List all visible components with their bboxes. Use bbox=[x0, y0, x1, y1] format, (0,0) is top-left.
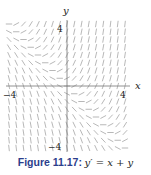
slope-segment bbox=[44, 99, 46, 105]
slope-segment bbox=[81, 21, 82, 27]
slope-segment bbox=[125, 36, 126, 42]
slope-segment bbox=[23, 129, 24, 135]
slope-segment bbox=[59, 37, 61, 43]
slope-segment bbox=[88, 29, 89, 35]
slope-segment bbox=[30, 122, 31, 128]
slope-segment bbox=[110, 60, 111, 66]
slope-segment bbox=[52, 129, 53, 135]
slope-segment bbox=[59, 129, 61, 135]
slope-segment bbox=[81, 52, 83, 58]
slope-segment bbox=[35, 46, 41, 49]
slope-segment bbox=[93, 108, 99, 111]
slope-segment bbox=[110, 21, 111, 27]
slope-segment bbox=[116, 122, 120, 127]
slope-segment bbox=[95, 145, 98, 151]
slope-segment bbox=[30, 106, 31, 112]
slope-segment bbox=[9, 122, 10, 128]
slope-segment bbox=[117, 60, 118, 66]
slope-segment bbox=[37, 129, 38, 135]
slope-segment bbox=[21, 30, 27, 33]
slope-segment bbox=[101, 138, 105, 143]
slope-segment bbox=[116, 114, 119, 119]
slope-segment bbox=[8, 75, 10, 81]
y-tick-min: −4 bbox=[48, 142, 62, 152]
slope-segment bbox=[51, 29, 53, 35]
slope-segment bbox=[88, 52, 90, 58]
slope-segment bbox=[44, 37, 47, 42]
caption-label: Figure 11.17: bbox=[18, 156, 82, 168]
slope-segment bbox=[51, 99, 54, 105]
slope-segment bbox=[73, 122, 76, 128]
slope-segment bbox=[95, 75, 97, 81]
slope-segment bbox=[73, 130, 75, 136]
slope-segment bbox=[6, 30, 12, 33]
slope-segment bbox=[110, 44, 111, 50]
slope-segment bbox=[7, 45, 10, 50]
slope-segment bbox=[109, 91, 111, 97]
slope-segment bbox=[115, 131, 121, 134]
slope-segment bbox=[72, 107, 76, 112]
slope-segment bbox=[73, 137, 75, 143]
slope-segment bbox=[57, 69, 63, 72]
slope-segment bbox=[28, 38, 34, 41]
slope-segment bbox=[87, 122, 91, 127]
slope-segment bbox=[29, 68, 32, 73]
slope-segment bbox=[102, 75, 104, 81]
slope-segment bbox=[117, 29, 118, 35]
slope-segment bbox=[73, 44, 75, 50]
slope-segment bbox=[87, 130, 90, 135]
slope-segment bbox=[42, 69, 48, 72]
slope-segment bbox=[102, 99, 105, 104]
slope-segment bbox=[73, 60, 76, 66]
slope-segment bbox=[50, 61, 56, 64]
slope-segment bbox=[8, 60, 10, 66]
slope-segment bbox=[23, 145, 24, 151]
slope-segment bbox=[108, 115, 112, 120]
slope-segment bbox=[35, 61, 41, 64]
x-tick-min: −4 bbox=[3, 90, 17, 100]
slope-segment bbox=[94, 130, 98, 135]
slope-segment bbox=[109, 107, 112, 112]
slope-segment bbox=[79, 115, 83, 120]
slope-segment bbox=[88, 145, 90, 151]
slope-segment bbox=[15, 52, 18, 57]
slope-segment bbox=[115, 146, 121, 149]
slope-segment bbox=[58, 91, 62, 96]
slope-segment bbox=[87, 75, 90, 81]
slope-segment bbox=[94, 91, 97, 96]
slope-segment bbox=[45, 145, 46, 151]
slope-segment bbox=[37, 98, 39, 104]
slope-segment bbox=[22, 68, 25, 74]
slope-segment bbox=[108, 139, 114, 142]
slope-segment bbox=[117, 67, 118, 73]
slope-segment bbox=[15, 75, 17, 81]
slope-segment bbox=[37, 114, 38, 120]
slope-segment bbox=[51, 37, 54, 43]
slope-segment bbox=[79, 92, 85, 95]
slope-segment bbox=[88, 60, 90, 66]
slope-segment bbox=[43, 76, 47, 81]
slope-segment bbox=[103, 44, 104, 50]
slope-segment bbox=[9, 145, 10, 151]
slope-segment bbox=[80, 137, 82, 143]
slope-segment bbox=[88, 21, 89, 27]
slope-segment bbox=[30, 91, 32, 97]
y-axis-label: y bbox=[62, 5, 69, 16]
slope-segment bbox=[23, 106, 24, 112]
slope-segment bbox=[110, 67, 111, 73]
slope-segment bbox=[16, 137, 17, 143]
slope-segment bbox=[16, 114, 17, 120]
slope-segment bbox=[37, 122, 38, 128]
slope-segment bbox=[73, 52, 75, 58]
slope-segment bbox=[44, 21, 46, 27]
slope-segment bbox=[117, 36, 118, 42]
y-tick-max: 4 bbox=[57, 24, 63, 34]
slope-segment bbox=[73, 36, 75, 42]
slope-segment bbox=[95, 29, 96, 35]
slope-segment bbox=[21, 53, 25, 58]
slope-segment bbox=[29, 75, 32, 81]
slope-segment bbox=[29, 29, 33, 34]
slope-segment bbox=[36, 37, 40, 42]
slope-segment bbox=[44, 106, 46, 112]
slope-segment bbox=[73, 145, 75, 151]
